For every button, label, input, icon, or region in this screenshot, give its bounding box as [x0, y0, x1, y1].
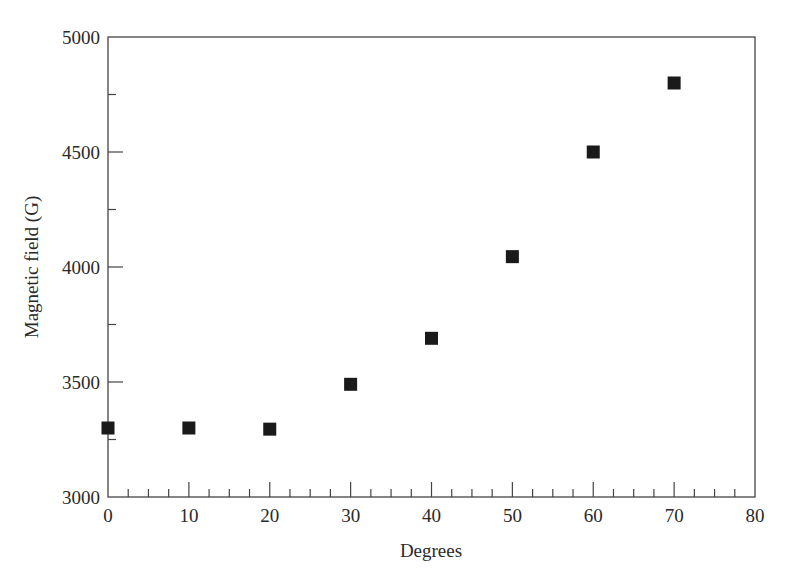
scatter-chart: 01020304050607080 30003500400045005000 D… [0, 0, 788, 580]
data-point-square [668, 77, 681, 90]
data-point-square [506, 250, 519, 263]
data-point-square [182, 422, 195, 435]
data-point-square [344, 378, 357, 391]
x-tick-label: 40 [422, 505, 441, 526]
y-tick-label: 5000 [62, 27, 100, 48]
x-tick-label: 70 [665, 505, 684, 526]
plot-frame [108, 37, 755, 497]
x-tick-label: 30 [341, 505, 360, 526]
y-tick-label: 3500 [62, 372, 100, 393]
x-tick-label: 20 [260, 505, 279, 526]
y-tick-label: 4000 [62, 257, 100, 278]
data-point-square [102, 422, 115, 435]
x-tick-label: 60 [584, 505, 603, 526]
y-tick-label: 3000 [62, 487, 100, 508]
data-point-square [587, 146, 600, 159]
y-tick-label: 4500 [62, 142, 100, 163]
y-axis-title: Magnetic field (G) [21, 196, 43, 338]
x-tick-label: 50 [503, 505, 522, 526]
x-tick-label: 10 [179, 505, 198, 526]
x-tick-label: 80 [746, 505, 765, 526]
data-point-square [263, 423, 276, 436]
y-axis-ticks: 30003500400045005000 [62, 27, 123, 508]
plot-border [108, 37, 755, 497]
x-axis-ticks: 01020304050607080 [103, 482, 764, 526]
x-axis-title: Degrees [400, 540, 462, 561]
data-point-square [425, 332, 438, 345]
x-tick-label: 0 [103, 505, 113, 526]
data-points [102, 77, 681, 436]
